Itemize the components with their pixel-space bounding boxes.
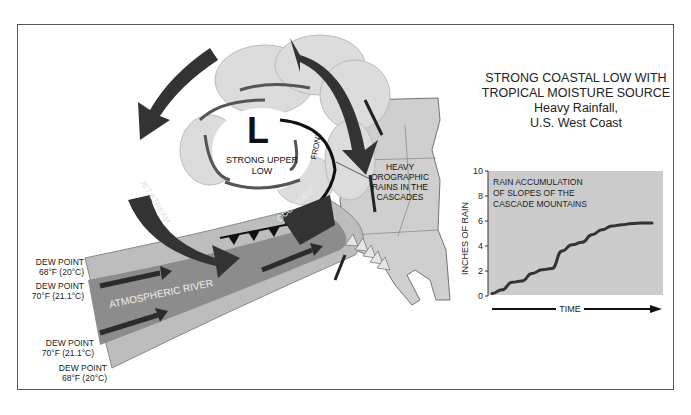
dew-point-title: DEW POINT bbox=[42, 363, 107, 373]
front-label: FRONT bbox=[309, 131, 324, 160]
dew-point-value: 68°F (20°C) bbox=[42, 373, 107, 383]
orographic-label-3: RAINS IN THE bbox=[372, 182, 428, 192]
chart-annotation-2: OF SLOPES OF THE bbox=[493, 188, 575, 198]
weather-diagram: L STRONG UPPER LOW JET STREAM OCCLUDED F… bbox=[0, 0, 691, 415]
title-line-1: STRONG COASTAL LOW WITH bbox=[476, 71, 676, 86]
time-arrowhead-icon bbox=[650, 305, 662, 313]
orographic-label-2: OROGRAPHIC bbox=[371, 172, 429, 182]
title-line-3: Heavy Rainfall, bbox=[476, 101, 676, 116]
orographic-label-4: CASCADES bbox=[377, 192, 424, 202]
dew-point-label-3: DEW POINT 70°F (21.1°C) bbox=[28, 338, 94, 358]
strong-upper-low-label-2: LOW bbox=[252, 166, 273, 176]
title-line-4: U.S. West Coast bbox=[476, 116, 676, 131]
title-line-2: TROPICAL MOISTURE SOURCE bbox=[476, 86, 676, 101]
dew-point-label-1: DEW POINT 68°F (20°C) bbox=[22, 257, 84, 277]
low-symbol: L bbox=[247, 110, 269, 151]
dew-point-label-4: DEW POINT 68°F (20°C) bbox=[42, 363, 107, 383]
y-tick-4: 4 bbox=[478, 241, 483, 251]
y-tick-10: 10 bbox=[473, 166, 483, 176]
rain-accumulation-chart: 10 8 6 4 2 0 INCHES OF RAIN RAIN ACCUMUL… bbox=[460, 166, 663, 314]
dew-point-title: DEW POINT bbox=[22, 257, 84, 267]
dew-point-title: DEW POINT bbox=[28, 338, 94, 348]
x-axis-label: TIME bbox=[559, 304, 581, 314]
dew-point-label-2: DEW POINT 70°F (21.1°C) bbox=[18, 281, 84, 301]
dew-point-title: DEW POINT bbox=[18, 281, 84, 291]
diagram-title: STRONG COASTAL LOW WITH TROPICAL MOISTUR… bbox=[476, 71, 676, 131]
dew-point-value: 70°F (21.1°C) bbox=[28, 348, 94, 358]
chart-annotation-3: CASCADE MOUNTAINS bbox=[493, 199, 587, 209]
y-tick-2: 2 bbox=[478, 266, 483, 276]
orographic-label-1: HEAVY bbox=[386, 162, 415, 172]
chart-annotation-1: RAIN ACCUMULATION bbox=[493, 177, 583, 187]
y-tick-6: 6 bbox=[478, 216, 483, 226]
dew-point-value: 68°F (20°C) bbox=[22, 267, 84, 277]
y-tick-0: 0 bbox=[478, 291, 483, 301]
strong-upper-low-label-1: STRONG UPPER bbox=[226, 155, 299, 165]
dew-point-value: 70°F (21.1°C) bbox=[18, 291, 84, 301]
y-tick-8: 8 bbox=[478, 191, 483, 201]
y-axis-label: INCHES OF RAIN bbox=[460, 202, 470, 275]
